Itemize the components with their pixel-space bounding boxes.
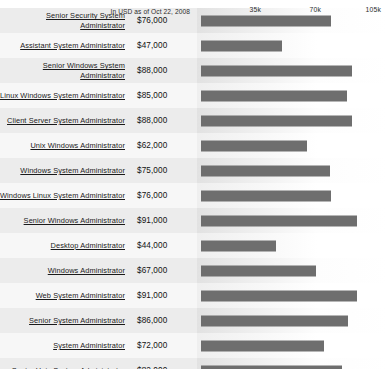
salary-value-cell: $67,000 (131, 258, 197, 283)
salary-value: $85,000 (137, 91, 167, 100)
salary-value: $47,000 (137, 41, 167, 50)
table-row: Linux Windows System Administrator$85,00… (0, 83, 389, 108)
job-title-cell: Senior System Administrator (0, 308, 131, 333)
bar-track (197, 33, 389, 58)
table-row: Client Server System Administrator$88,00… (0, 108, 389, 133)
bar-track (197, 358, 389, 369)
job-title-cell: Windows System Administrator (0, 158, 131, 183)
chart-axis: In USD as of Oct 22, 2008 35k70k105k (0, 2, 389, 20)
bar-track (197, 208, 389, 233)
job-title-cell: Desktop Administrator (0, 233, 131, 258)
bar-track (197, 83, 389, 108)
job-title-link[interactable]: Web System Administrator (36, 291, 125, 300)
table-row: Senior Windows System Administrator$88,0… (0, 58, 389, 83)
salary-bar (201, 90, 347, 101)
job-title-cell: Senior Unix System Administrator (0, 358, 131, 369)
job-title-link[interactable]: Windows Linux System Administrator (0, 191, 125, 200)
currency-note: In USD as of Oct 22, 2008 (111, 8, 190, 15)
axis-note-cell: In USD as of Oct 22, 2008 (0, 8, 197, 15)
salary-value-cell: $44,000 (131, 233, 197, 258)
table-row: Web System Administrator$91,000 (0, 283, 389, 308)
salary-value-cell: $88,000 (131, 58, 197, 83)
salary-value: $72,000 (137, 341, 167, 350)
bar-track (197, 258, 389, 283)
job-title-cell: Windows Linux System Administrator (0, 183, 131, 208)
job-title-cell: Web System Administrator (0, 283, 131, 308)
table-row: Assistant System Administrator$47,000 (0, 33, 389, 58)
table-row: Windows System Administrator$75,000 (0, 158, 389, 183)
salary-value-cell: $91,000 (131, 283, 197, 308)
job-title-link[interactable]: Client Server System Administrator (7, 116, 125, 125)
bar-track (197, 158, 389, 183)
table-row: Windows Linux System Administrator$76,00… (0, 183, 389, 208)
salary-bar (201, 240, 276, 251)
bar-track (197, 233, 389, 258)
table-row: Senior Windows Administrator$91,000 (0, 208, 389, 233)
job-title-link[interactable]: Senior System Administrator (29, 316, 125, 325)
salary-value-cell: $88,000 (131, 108, 197, 133)
table-row: Desktop Administrator$44,000 (0, 233, 389, 258)
salary-value-cell: $72,000 (131, 333, 197, 358)
salary-value-cell: $91,000 (131, 208, 197, 233)
axis-tick: 35k (249, 6, 261, 13)
salary-bar (201, 215, 357, 226)
salary-value: $76,000 (137, 191, 167, 200)
salary-value: $88,000 (137, 66, 167, 75)
salary-value: $86,000 (137, 316, 167, 325)
salary-bar (201, 115, 352, 126)
job-title-link[interactable]: Windows Administrator (48, 266, 125, 275)
axis-tick: 70k (309, 6, 321, 13)
chart-rows: Senior Security System Administrator$76,… (0, 8, 389, 369)
table-row: Windows Administrator$67,000 (0, 258, 389, 283)
axis-tick-labels: 35k70k105k (197, 2, 389, 20)
table-row: Senior Unix System Administrator$82,000 (0, 358, 389, 369)
salary-bar (201, 365, 342, 369)
salary-bar (201, 40, 282, 51)
salary-value-cell: $47,000 (131, 33, 197, 58)
salary-bar (201, 315, 348, 326)
axis-tick: 105k (365, 6, 381, 13)
table-row: Senior System Administrator$86,000 (0, 308, 389, 333)
bar-track (197, 58, 389, 83)
job-title-link[interactable]: System Administrator (53, 341, 125, 350)
salary-bar (201, 265, 316, 276)
job-title-cell: Senior Windows System Administrator (0, 58, 131, 83)
job-title-cell: Assistant System Administrator (0, 33, 131, 58)
salary-bar (201, 165, 330, 176)
salary-value: $75,000 (137, 166, 167, 175)
salary-bar-chart: Senior Security System Administrator$76,… (0, 0, 389, 369)
job-title-link[interactable]: Unix Windows Administrator (30, 141, 125, 150)
bar-track (197, 183, 389, 208)
salary-bar (201, 65, 352, 76)
job-title-link[interactable]: Assistant System Administrator (20, 41, 125, 50)
salary-value: $91,000 (137, 291, 167, 300)
salary-value: $88,000 (137, 116, 167, 125)
bar-track (197, 308, 389, 333)
salary-bar (201, 340, 324, 351)
job-title-cell: Linux Windows System Administrator (0, 83, 131, 108)
salary-value-cell: $62,000 (131, 133, 197, 158)
salary-value-cell: $85,000 (131, 83, 197, 108)
salary-value: $62,000 (137, 141, 167, 150)
job-title-cell: Unix Windows Administrator (0, 133, 131, 158)
bar-track (197, 283, 389, 308)
job-title-cell: System Administrator (0, 333, 131, 358)
salary-value-cell: $86,000 (131, 308, 197, 333)
salary-value-cell: $82,000 (131, 358, 197, 369)
job-title-link[interactable]: Senior Windows System Administrator (0, 61, 125, 79)
job-title-link[interactable]: Desktop Administrator (51, 241, 125, 250)
job-title-cell: Windows Administrator (0, 258, 131, 283)
job-title-cell: Client Server System Administrator (0, 108, 131, 133)
job-title-cell: Senior Windows Administrator (0, 208, 131, 233)
table-row: Unix Windows Administrator$62,000 (0, 133, 389, 158)
job-title-link[interactable]: Senior Windows Administrator (24, 216, 125, 225)
bar-track (197, 108, 389, 133)
salary-value: $67,000 (137, 266, 167, 275)
job-title-link[interactable]: Linux Windows System Administrator (0, 91, 125, 100)
bar-track (197, 133, 389, 158)
salary-value: $44,000 (137, 241, 167, 250)
salary-value-cell: $75,000 (131, 158, 197, 183)
job-title-link[interactable]: Windows System Administrator (20, 166, 125, 175)
salary-value: $91,000 (137, 216, 167, 225)
table-row: System Administrator$72,000 (0, 333, 389, 358)
